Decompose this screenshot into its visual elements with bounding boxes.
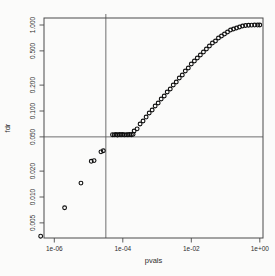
data-point xyxy=(144,115,148,119)
data-point xyxy=(39,234,43,238)
y-tick-label: 0.010 xyxy=(29,188,36,205)
data-point xyxy=(79,181,83,185)
data-point xyxy=(162,94,166,98)
x-tick-label: 1e+00 xyxy=(251,245,270,252)
chart-svg: 1e-061e-041e-021e+000.0050.0100.0200.050… xyxy=(0,0,275,276)
data-point xyxy=(168,87,172,91)
y-tick-label: 1.000 xyxy=(29,16,36,33)
y-tick-label: 0.200 xyxy=(29,77,36,94)
data-point xyxy=(135,127,139,131)
y-axis-title: fdr xyxy=(3,123,12,132)
data-point xyxy=(186,66,190,70)
y-tick-label: 0.005 xyxy=(29,214,36,231)
x-tick-label: 1e-04 xyxy=(114,245,131,252)
y-tick-label: 0.100 xyxy=(29,102,36,119)
x-axis: 1e-061e-041e-021e+00 xyxy=(46,238,269,252)
data-point xyxy=(180,73,184,77)
data-point xyxy=(174,80,178,84)
data-point xyxy=(141,119,145,123)
y-tick-label: 0.500 xyxy=(29,42,36,59)
x-axis-title: pvals xyxy=(145,256,163,265)
reference-lines xyxy=(44,14,263,238)
y-tick-label: 0.020 xyxy=(29,163,36,180)
data-point xyxy=(63,206,67,210)
x-tick-label: 1e-02 xyxy=(183,245,200,252)
data-point xyxy=(156,101,160,105)
data-point xyxy=(150,108,154,112)
plot-frame xyxy=(44,18,263,238)
fdr-vs-pvals-plot: 1e-061e-041e-021e+000.0050.0100.0200.050… xyxy=(0,0,275,276)
y-axis: 0.0050.0100.0200.0500.1000.2000.5001.000 xyxy=(29,16,44,231)
chart-generated: 1e-061e-041e-021e+000.0050.0100.0200.050… xyxy=(29,14,269,252)
x-tick-label: 1e-06 xyxy=(46,245,63,252)
y-tick-label: 0.050 xyxy=(29,128,36,145)
data-points xyxy=(39,23,262,238)
